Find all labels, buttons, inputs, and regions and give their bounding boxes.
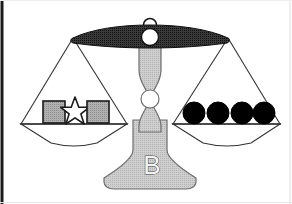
- black-circle-4: [253, 102, 275, 124]
- gray-square-right: [87, 101, 109, 123]
- black-circle-3: [231, 102, 253, 124]
- beam-pivot-circle: [142, 29, 159, 46]
- black-circle-1: [183, 102, 205, 124]
- balance-scale-figure: B: [0, 0, 292, 204]
- black-circle-2: [207, 102, 229, 124]
- balance-scale-svg: B: [0, 0, 292, 204]
- column-joint-circle: [141, 90, 159, 108]
- gray-square-left: [43, 101, 65, 123]
- base-label-b: B: [143, 150, 160, 180]
